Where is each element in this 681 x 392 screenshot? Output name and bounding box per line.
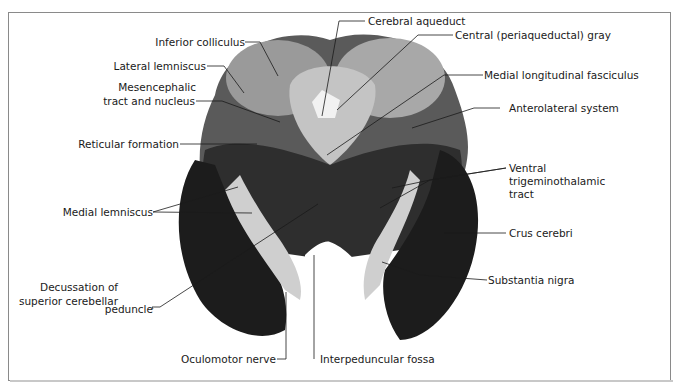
- label-crus-cerebri: Crus cerebri: [509, 227, 573, 239]
- label-cerebral-aqueduct: Cerebral aqueduct: [368, 15, 465, 27]
- label-substantia-nigra: Substantia nigra: [488, 274, 574, 286]
- label-interpeduncular-fossa: Interpeduncular fossa: [320, 353, 435, 365]
- label-inferior-colliculus: Inferior colliculus: [155, 36, 245, 48]
- label-decussation-line2: superior cerebellar: [19, 295, 118, 307]
- label-medial-longitudinal-fasciculus: Medial longitudinal fasciculus: [484, 69, 639, 81]
- label-medial-lemniscus: Medial lemniscus: [63, 206, 153, 218]
- label-central-gray: Central (periaqueductal) gray: [455, 29, 611, 41]
- label-decussation-line1: Decussation of: [40, 281, 118, 293]
- midbrain-section-illustration: [0, 0, 681, 392]
- label-reticular-formation: Reticular formation: [78, 138, 179, 150]
- label-oculomotor-nerve: Oculomotor nerve: [181, 353, 276, 365]
- label-vtt-line2: trigeminothalamic: [509, 175, 605, 187]
- label-vtt-line1: Ventral: [509, 162, 546, 174]
- label-decussation-line3: peduncle: [105, 303, 153, 315]
- label-mesencephalic-line1: Mesencephalic: [118, 81, 196, 93]
- label-anterolateral-system: Anterolateral system: [509, 102, 619, 114]
- label-mesencephalic-line2: tract and nucleus: [103, 95, 195, 107]
- label-lateral-lemniscus: Lateral lemniscus: [114, 60, 206, 72]
- label-vtt-line3: tract: [509, 188, 534, 200]
